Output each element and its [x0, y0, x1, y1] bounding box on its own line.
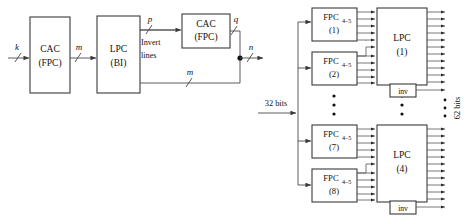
block-cac1-line1: CAC	[40, 44, 60, 54]
input-bits-label: 32 bits	[265, 99, 288, 108]
left-diagram: k CAC (FPC) m LPC (BI) p Invert lines	[8, 14, 263, 93]
block-fpc1-base: FPC	[323, 12, 339, 22]
block-fpc-8[interactable]: FPC 4–5 (8)	[312, 169, 357, 202]
signal-label-q: q	[234, 14, 239, 24]
block-cac1-line2: (FPC)	[38, 58, 61, 69]
block-cac2-line2: (FPC)	[194, 32, 217, 43]
block-lpc1-line2: (BI)	[111, 58, 127, 69]
output-bits-label-group: 62 bits	[453, 97, 462, 120]
inv-label-4: inv	[398, 204, 408, 213]
bus-fpc7-to-lpc4	[357, 129, 375, 157]
signal-label-p: p	[147, 14, 153, 24]
wire-m-cac1-lpc: m	[70, 42, 96, 62]
inv-block-lpc4[interactable]: inv	[390, 201, 445, 214]
block-lpc-1[interactable]: LPC (1)	[377, 8, 427, 85]
invert-lines-label-2: lines	[141, 51, 156, 60]
block-lpc1-line1: LPC	[110, 44, 127, 54]
fpc-column-ellipsis	[332, 94, 335, 115]
block-cac-fpc-2[interactable]: CAC (FPC)	[182, 14, 230, 48]
signal-label-k: k	[15, 42, 20, 52]
block-fpc-7[interactable]: FPC 4–5 (7)	[312, 125, 357, 158]
output-bits-label: 62 bits	[453, 97, 462, 120]
block-fpc8-subscript: 4–5	[342, 178, 351, 185]
block-lpc-array4-index: (4)	[396, 164, 407, 175]
signal-label-n: n	[249, 42, 254, 52]
block-fpc2-base: FPC	[323, 56, 339, 66]
inv-block-lpc1[interactable]: inv	[390, 84, 445, 97]
invert-lines-label-1: Invert	[141, 38, 161, 47]
block-fpc1-subscript: 4–5	[342, 17, 351, 24]
output-column-ellipsis	[444, 99, 447, 118]
block-fpc-1[interactable]: FPC 4–5 (1)	[312, 8, 357, 41]
wire-m-bypass: m	[140, 58, 240, 87]
block-lpc-4[interactable]: LPC (4)	[377, 125, 427, 202]
signal-label-m1: m	[76, 42, 83, 52]
input-bus-32bits: 32 bits	[258, 22, 311, 185]
bus-lpc4-outputs	[427, 129, 445, 199]
bus-fpc1-to-lpc1	[357, 12, 375, 41]
block-cac-fpc-1[interactable]: CAC (FPC)	[30, 17, 70, 93]
block-fpc8-index: (8)	[329, 186, 339, 196]
block-lpc-array1-base: LPC	[393, 33, 410, 43]
input-wire-k: k	[8, 42, 29, 62]
block-fpc2-subscript: 4–5	[342, 61, 351, 68]
block-fpc2-index: (2)	[329, 69, 339, 79]
lpc-column-ellipsis	[400, 94, 403, 115]
figure-canvas: k CAC (FPC) m LPC (BI) p Invert lines	[0, 0, 468, 216]
bus-lpc1-outputs	[427, 12, 445, 82]
wire-p-invert-lines: p Invert lines	[140, 14, 181, 60]
block-lpc-array4-base: LPC	[393, 150, 410, 160]
block-fpc7-subscript: 4–5	[342, 134, 351, 141]
bus-fpc2-to-lpc1	[357, 47, 375, 83]
block-lpc-bi[interactable]: LPC (BI)	[97, 16, 140, 93]
inv-label-1: inv	[398, 87, 408, 96]
block-fpc7-index: (7)	[329, 142, 339, 152]
block-fpc1-index: (1)	[329, 25, 339, 35]
block-fpc7-base: FPC	[323, 129, 339, 139]
bus-fpc8-to-lpc4	[357, 164, 375, 200]
output-junction-n: n	[237, 42, 263, 62]
block-fpc8-base: FPC	[323, 173, 339, 183]
right-diagram: 32 bits FPC 4–5 (1) FPC 4–5 (2) FPC	[258, 8, 462, 214]
block-lpc-array1-index: (1)	[396, 47, 407, 58]
signal-label-m2: m	[187, 67, 194, 77]
block-fpc-2[interactable]: FPC 4–5 (2)	[312, 52, 357, 85]
block-cac2-line1: CAC	[196, 19, 216, 29]
wire-q: q	[230, 14, 240, 58]
